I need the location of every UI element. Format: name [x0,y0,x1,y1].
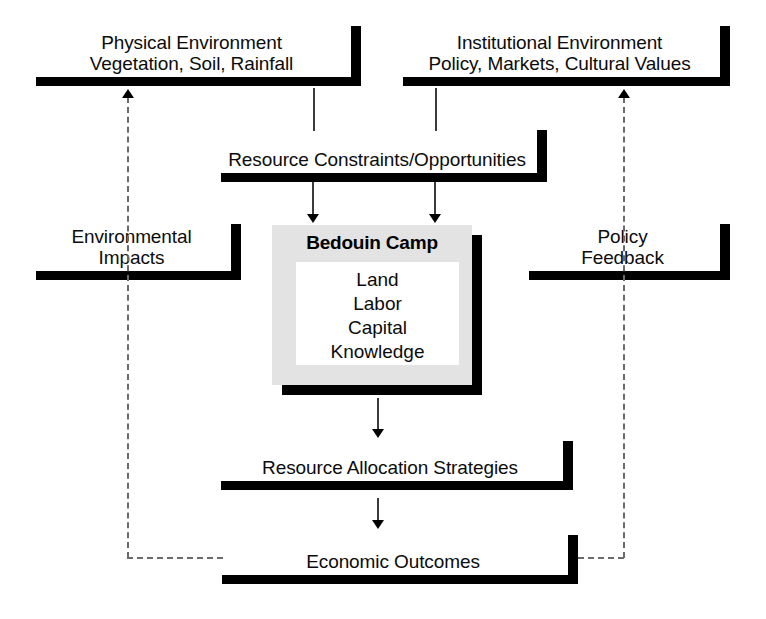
arrowhead-constraints-to-camp-left [307,214,319,223]
node-bedouin-camp-title: Bedouin Camp [272,232,472,254]
bedouin-camp-resource-items: Land Labor Capital Knowledge [296,268,459,365]
node-resource-allocation-strategies: Resource Allocation Strategies [221,441,573,490]
connector-camp-to-allocation [377,398,379,431]
node-rule [222,575,578,584]
node-bedouin-camp: Bedouin Camp Land Labor Capital Knowledg… [272,225,472,385]
node-resource-constraints-label: Resource Constraints/Opportunities [221,149,533,171]
connector-physical-to-constraints [313,88,315,131]
arrowhead-feedback-left [122,89,134,98]
node-environmental-impacts: Environmental Impacts [36,224,241,280]
node-rule [529,271,730,280]
connector-allocation-to-outcomes [377,498,379,522]
connector-institutional-to-constraints [435,88,437,131]
node-rule [221,173,547,182]
node-policy-feedback: Policy Feedback [529,224,730,280]
node-institutional-environment: Institutional Environment Policy, Market… [403,26,730,86]
node-rule [403,77,730,86]
node-economic-outcomes: Economic Outcomes [222,535,578,584]
node-resource-constraints: Resource Constraints/Opportunities [221,130,547,182]
connector-constraints-to-camp-right [434,182,436,216]
arrowhead-allocation-to-outcomes [372,520,384,529]
node-physical-environment: Physical Environment Vegetation, Soil, R… [36,26,361,86]
process-diagram: Physical Environment Vegetation, Soil, R… [0,0,766,619]
node-riser [568,535,578,584]
bedouin-camp-resource-list: Land Labor Capital Knowledge [296,262,459,365]
node-physical-environment-label: Physical Environment Vegetation, Soil, R… [36,32,347,75]
node-institutional-environment-label: Institutional Environment Policy, Market… [403,32,716,75]
node-riser [231,224,241,280]
node-environmental-impacts-label: Environmental Impacts [36,226,227,269]
arrowhead-feedback-right [618,89,630,98]
node-riser [563,441,573,490]
node-riser [720,26,730,86]
feedback-right-vertical [623,97,625,558]
arrowhead-constraints-to-camp-right [429,214,441,223]
node-riser [720,224,730,280]
feedback-left-vertical [127,97,129,558]
node-resource-allocation-strategies-label: Resource Allocation Strategies [221,457,559,479]
feedback-right-horizontal [578,557,624,559]
node-riser [351,26,361,86]
connector-constraints-to-camp-left [312,182,314,216]
node-rule [221,481,573,490]
node-riser [537,130,547,182]
node-rule [36,77,361,86]
node-economic-outcomes-label: Economic Outcomes [222,551,564,573]
node-rule [36,271,241,280]
feedback-left-horizontal [127,557,223,559]
arrowhead-camp-to-allocation [372,429,384,438]
